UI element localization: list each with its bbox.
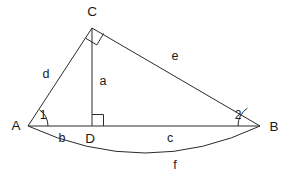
vertex-label-b: B xyxy=(269,119,278,134)
geometry-diagram: A B C D d e a b c f 1 2 xyxy=(0,0,293,179)
side-label-d: d xyxy=(43,67,50,81)
side-label-e: e xyxy=(172,49,179,63)
side-label-b: b xyxy=(59,131,66,145)
angle-label-2: 2 xyxy=(235,108,242,122)
side-label-a: a xyxy=(100,74,107,88)
right-angle-mark-d xyxy=(92,115,104,127)
vertex-label-a: A xyxy=(11,118,20,133)
side-label-f: f xyxy=(173,158,177,172)
segment-ac xyxy=(28,28,92,126)
angle-label-1: 1 xyxy=(40,108,47,122)
vertex-label-c: C xyxy=(87,4,97,19)
right-angle-mark-c xyxy=(85,33,103,45)
side-label-c: c xyxy=(167,131,173,145)
geometry-canvas: A B C D d e a b c f 1 2 xyxy=(0,0,293,179)
vertex-label-d: D xyxy=(85,131,95,146)
